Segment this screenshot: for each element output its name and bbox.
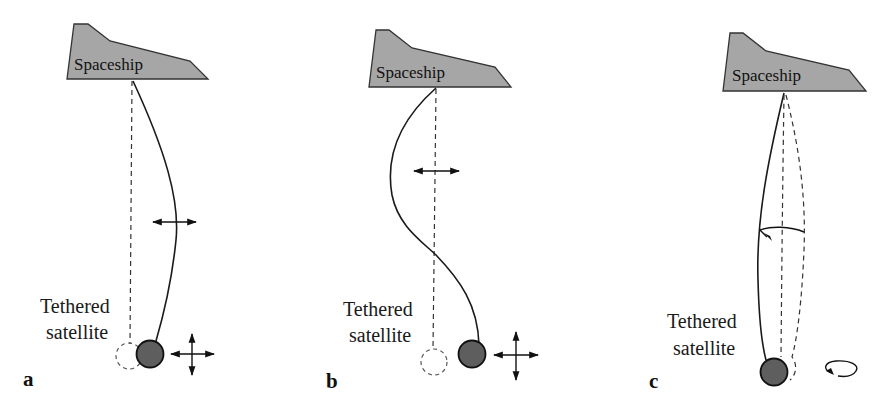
panel-c: Spaceship Tethered satellite c: [649, 33, 866, 393]
satellite: [761, 359, 788, 386]
satellite: [137, 341, 164, 368]
satellite-label-line1: Tethered: [667, 310, 737, 332]
equilibrium-line: [433, 89, 436, 350]
satellite-label-line2: satellite: [349, 324, 411, 346]
panel-letter: a: [23, 367, 34, 391]
cone-back-edge: [786, 95, 804, 380]
panel-letter: b: [326, 369, 338, 393]
rotation-arrowhead-icon: [826, 368, 834, 375]
spaceship-label: Spaceship: [732, 66, 801, 85]
satellite-label-line1: Tethered: [40, 295, 110, 317]
panel-letter: c: [649, 369, 658, 393]
cone-center-line: [781, 95, 784, 357]
tethered-satellite-diagram: Spaceship Tethered satellite a Spaceship: [0, 0, 893, 407]
spaceship-label: Spaceship: [74, 55, 143, 74]
satellite: [459, 341, 486, 368]
satellite-label-line2: satellite: [673, 337, 735, 359]
panel-a: Spaceship Tethered satellite a: [23, 24, 214, 391]
satellite-label-line2: satellite: [46, 321, 108, 343]
satellite-label-line1: Tethered: [343, 298, 413, 320]
tether: [758, 93, 784, 360]
rotation-arrowhead-icon: [764, 233, 772, 241]
four-way-arrow-icon: [171, 334, 214, 375]
panel-b: Spaceship Tethered satellite b: [326, 30, 538, 393]
spaceship-label: Spaceship: [376, 63, 445, 82]
tether: [133, 81, 177, 341]
satellite-equilibrium-position: [421, 349, 447, 375]
four-way-arrow-icon: [494, 332, 538, 380]
equilibrium-line: [130, 81, 132, 344]
